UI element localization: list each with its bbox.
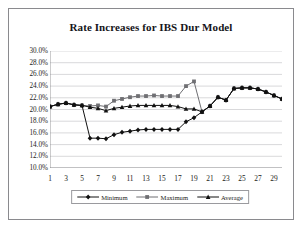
y-axis-tick-label: 18.0% [29, 117, 48, 125]
data-point-square [160, 94, 164, 98]
data-point-diamond [152, 127, 157, 132]
x-axis-tick-label: 9 [112, 174, 116, 183]
x-axis-tick-label: 3 [64, 174, 68, 183]
series-maximum [50, 80, 282, 114]
x-axis-tick-label: 21 [206, 174, 213, 183]
data-point-square [192, 80, 196, 84]
legend-item-average[interactable]: Average [197, 193, 243, 201]
legend-item-minimum[interactable]: Minimum [77, 193, 127, 201]
series-line [50, 88, 282, 112]
line-chart-svg [50, 51, 282, 168]
y-axis-tick-label: 22.0% [29, 94, 48, 102]
x-axis-tick-label: 23 [222, 174, 229, 183]
y-axis-tick-label: 30.0% [29, 47, 48, 55]
data-point-diamond [168, 127, 173, 132]
x-axis-tick-label: 5 [80, 174, 84, 183]
data-point-square [168, 94, 172, 98]
x-axis-tick-label: 17 [174, 174, 181, 183]
data-point-diamond [104, 136, 109, 141]
y-axis-tick-label: 16.0% [29, 129, 48, 137]
x-axis-tick-label: 13 [142, 174, 149, 183]
data-point-square [104, 105, 108, 109]
y-axis-tick-label: 26.0% [29, 70, 48, 78]
x-axis-tick-label: 1 [48, 174, 52, 183]
series-line [50, 88, 282, 139]
legend-label: Maximum [161, 194, 188, 201]
data-point-square [152, 94, 156, 98]
data-point-diamond [160, 127, 165, 132]
y-axis-tick-label: 28.0% [29, 59, 48, 67]
data-point-square [112, 99, 116, 103]
data-point-diamond [96, 136, 101, 141]
y-axis-tick-label: 24.0% [29, 82, 48, 90]
data-point-square [128, 95, 132, 99]
x-axis-tick-label: 27 [254, 174, 261, 183]
data-point-diamond [144, 127, 149, 132]
x-axis-tick-label: 11 [126, 174, 133, 183]
data-point-square [136, 94, 140, 98]
y-axis-tick-label: 14.0% [29, 141, 48, 149]
legend-label: Minimum [101, 194, 127, 201]
x-axis-tick-labels: 1357911131517192123252729 [0, 174, 304, 186]
data-point-diamond [136, 127, 141, 132]
legend-label: Average [221, 194, 243, 201]
data-point-square [176, 94, 180, 98]
data-point-diamond [86, 195, 91, 200]
data-point-square [144, 94, 148, 98]
legend-swatch-diamond-icon [77, 193, 99, 201]
x-axis-tick-label: 7 [96, 174, 100, 183]
chart-legend: MinimumMaximumAverage [71, 190, 249, 204]
legend-swatch-triangle-icon [197, 193, 219, 201]
data-point-square [120, 97, 124, 101]
y-axis-tick-label: 12.0% [29, 152, 48, 160]
y-axis-tick-labels: 30.0%28.0%26.0%24.0%22.0%20.0%18.0%16.0%… [0, 0, 50, 230]
data-point-diamond [120, 130, 125, 135]
legend-item-maximum[interactable]: Maximum [137, 193, 188, 201]
data-point-square [146, 195, 150, 199]
x-axis-tick-label: 15 [158, 174, 165, 183]
x-axis-tick-label: 29 [270, 174, 277, 183]
y-axis-tick-label: 20.0% [29, 106, 48, 114]
legend-swatch-square-icon [137, 193, 159, 201]
x-axis-tick-label: 25 [238, 174, 245, 183]
plot-area [50, 51, 282, 168]
data-point-diamond [88, 136, 93, 141]
y-axis-tick-label: 10.0% [29, 164, 48, 172]
page-title: Rate Increases for IBS Dur Model [9, 21, 293, 33]
x-axis-tick-label: 19 [190, 174, 197, 183]
data-point-square [184, 84, 188, 88]
